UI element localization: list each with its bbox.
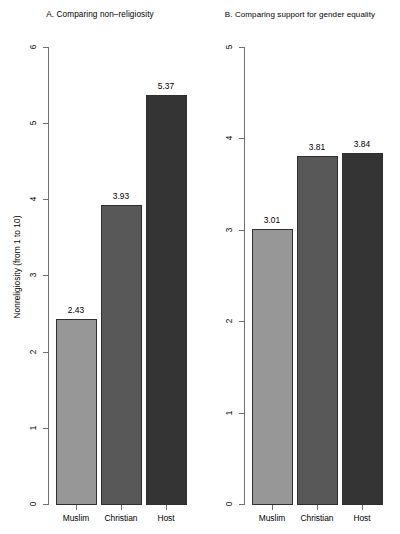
panel-a-ytick-label-0: 0 [30,497,38,511]
panel-a-ytick-label-6: 6 [30,40,38,54]
panel-b-ytick-label-0: 0 [226,497,234,511]
panel-a-ytick-5 [43,123,48,124]
panel-a-ytick-4 [43,199,48,200]
panel-a-xtick-host [166,505,167,510]
panel-b-bar-value-host: 3.84 [339,140,385,149]
panel-b-ytick-label-3: 3 [226,223,234,237]
panel-a-ytick-2 [43,352,48,353]
panel-a-bar-value-host: 5.37 [143,82,189,91]
panel-a-ytick-3 [43,275,48,276]
panel-b-xtick-label-host: Host [332,513,392,523]
panel-b-y-axis-line [244,47,245,505]
panel-a-ytick-6 [43,47,48,48]
panel-b-ytick-5 [239,47,244,48]
panel-b-ytick-label-4: 4 [226,131,234,145]
panel-b-ytick-label-5: 5 [226,40,234,54]
panel-a-ytick-label-3: 3 [30,268,38,282]
panel-b-bar-value-christian: 3.81 [294,143,340,152]
panel-a-ytick-label-2: 2 [30,345,38,359]
panel-b-ytick-2 [239,321,244,322]
panel-b-xtick-host [362,505,363,510]
panel-a-y-axis-line [48,47,49,505]
panel-b-bar-value-muslim: 3.01 [249,216,295,225]
panel-b-ytick-label-1: 1 [226,406,234,420]
panel-a-bar-host [146,95,187,505]
panel-a-ytick-label-4: 4 [30,192,38,206]
panel-b-plot-area: 0 1 2 3 4 5 3.01 3.81 3.84 Muslim Christ… [200,0,400,534]
panel-b-bar-muslim [252,229,293,505]
panel-b-ytick-0 [239,504,244,505]
panel-a-bar-value-christian: 3.93 [98,192,144,201]
panel-a-plot-area: 0 1 2 3 4 5 6 2.43 3.93 5.37 Muslim Chri… [0,0,200,534]
panel-a-ytick-1 [43,428,48,429]
panel-b-ytick-1 [239,413,244,414]
panel-b-ytick-label-2: 2 [226,314,234,328]
panel-a-xtick-muslim [76,505,77,510]
panel-a-xtick-label-host: Host [136,513,196,523]
panel-b-xtick-muslim [272,505,273,510]
panel-a-bar-value-muslim: 2.43 [53,306,99,315]
panel-a-xtick-christian [121,505,122,510]
chart-panel-a: A. Comparing non–religiosity Nonreligios… [0,0,200,534]
panel-b-ytick-3 [239,230,244,231]
panel-a-ytick-0 [43,504,48,505]
panel-a-bar-christian [101,205,142,505]
panel-b-xtick-christian [317,505,318,510]
panel-b-bar-christian [297,156,338,505]
panel-a-bar-muslim [56,319,97,505]
panel-a-ytick-label-1: 1 [30,421,38,435]
chart-panel-b: B. Comparing support for gender equality… [200,0,400,534]
panel-b-ytick-4 [239,138,244,139]
panel-a-ytick-label-5: 5 [30,116,38,130]
panel-b-bar-host [342,153,383,505]
